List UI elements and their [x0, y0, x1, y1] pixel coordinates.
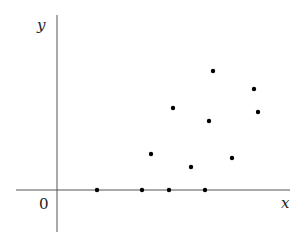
- data-point: [140, 188, 144, 192]
- data-point: [256, 110, 260, 114]
- data-point: [95, 188, 99, 192]
- scatter-plot: y x 0: [0, 0, 307, 237]
- x-axis-label: x: [281, 194, 290, 212]
- axes: [16, 15, 290, 232]
- data-point: [171, 106, 175, 110]
- data-point: [167, 188, 171, 192]
- data-point: [207, 119, 211, 123]
- data-point: [189, 165, 193, 169]
- y-axis-label: y: [36, 16, 46, 34]
- data-point: [252, 87, 256, 91]
- data-point: [203, 188, 207, 192]
- data-point: [230, 156, 234, 160]
- data-point: [211, 69, 215, 73]
- origin-label: 0: [39, 195, 49, 213]
- data-point: [149, 152, 153, 156]
- data-points: [95, 69, 260, 192]
